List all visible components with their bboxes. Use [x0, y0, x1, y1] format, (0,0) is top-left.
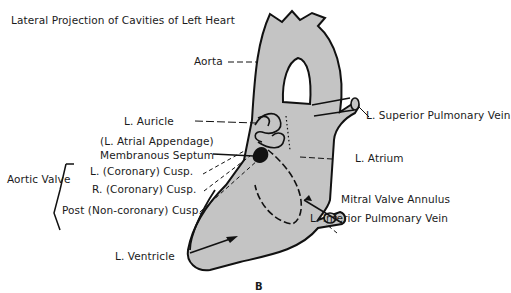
- label-l-ventricle: L. Ventricle: [115, 250, 175, 262]
- label-l-inferior-pulmonary-vein: L. Inferior Pulmonary Vein: [310, 212, 448, 224]
- label-l-atrium: L. Atrium: [355, 152, 404, 164]
- diagram-title: Lateral Projection of Cavities of Left H…: [11, 14, 235, 26]
- label-l-auricle: L. Auricle: [124, 115, 174, 127]
- label-mitral-valve-annulus: Mitral Valve Annulus: [341, 193, 450, 205]
- label-membranous-septum: Membranous Septum: [100, 149, 214, 161]
- label-aortic-valve: Aortic Valve: [7, 173, 70, 185]
- label-r-coronary-cusp: R. (Coronary) Cusp.: [92, 183, 196, 195]
- label-l-atrial-appendage: (L. Atrial Appendage): [100, 135, 214, 147]
- heart-diagram: [0, 0, 511, 293]
- label-aorta: Aorta: [194, 55, 223, 67]
- label-l-superior-pulmonary-vein: L. Superior Pulmonary Vein: [366, 109, 511, 121]
- figure-letter: B: [255, 281, 263, 293]
- label-l-coronary-cusp: L. (Coronary) Cusp.: [90, 165, 193, 177]
- label-post-noncoronary-cusp: Post (Non-coronary) Cusp.: [62, 204, 202, 216]
